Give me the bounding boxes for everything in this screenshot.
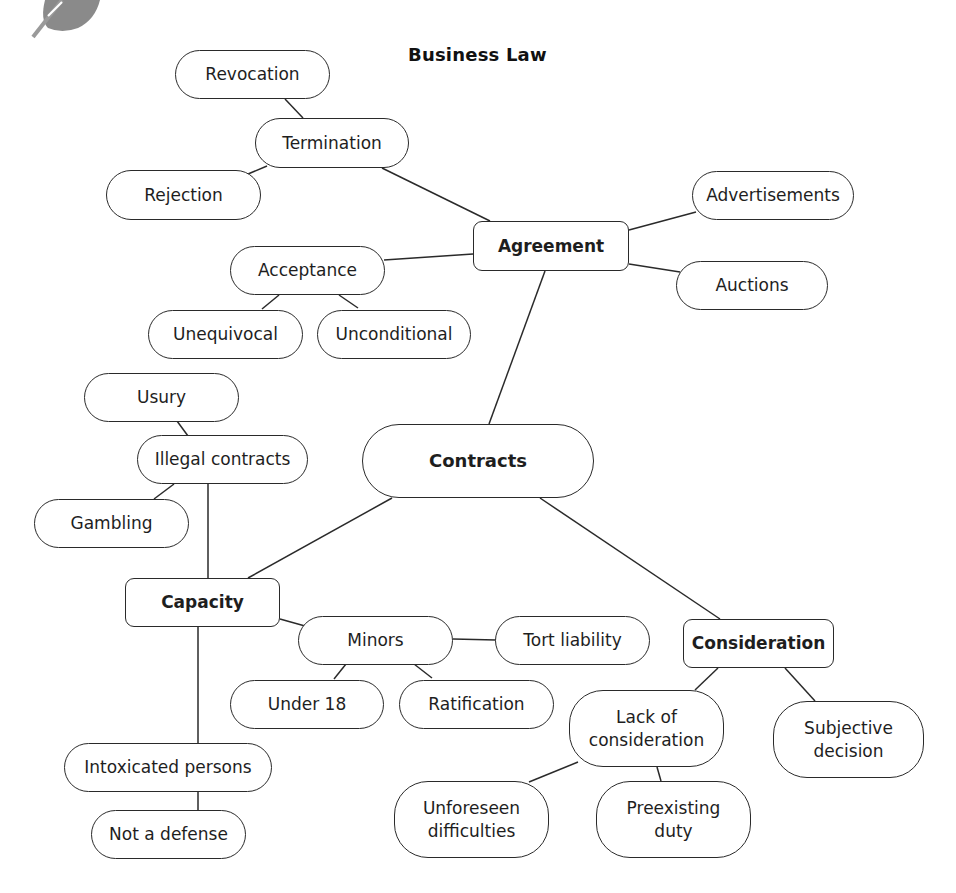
link-agreement-advertisements [629, 212, 696, 230]
node-preexisting-duty[interactable]: Preexisting duty [596, 781, 751, 858]
node-revocation[interactable]: Revocation [175, 50, 330, 99]
node-gambling[interactable]: Gambling [34, 499, 189, 548]
link-minors-under18 [334, 664, 346, 679]
link-termination-agreement [382, 168, 490, 221]
diagram-title: Business Law [408, 44, 547, 65]
node-auctions[interactable]: Auctions [676, 261, 828, 310]
link-termination-rejection [248, 166, 267, 174]
node-acceptance[interactable]: Acceptance [230, 246, 385, 295]
node-tort-liability[interactable]: Tort liability [495, 616, 650, 665]
link-contracts-capacity [248, 498, 392, 578]
node-usury[interactable]: Usury [84, 373, 239, 422]
link-consideration-lack [695, 668, 718, 690]
node-intoxicated-persons[interactable]: Intoxicated persons [64, 743, 272, 792]
node-capacity[interactable]: Capacity [125, 578, 280, 627]
link-lack-preexisting [657, 767, 661, 781]
node-rejection[interactable]: Rejection [106, 170, 261, 220]
link-minors-tort [453, 639, 496, 640]
node-advertisements[interactable]: Advertisements [692, 171, 854, 220]
link-revocation-termination [285, 99, 303, 118]
link-agreement-acceptance [384, 254, 473, 260]
concept-map: Business Law Revocation Termination Reje… [0, 0, 956, 893]
node-unequivocal[interactable]: Unequivocal [148, 310, 303, 359]
node-unconditional[interactable]: Unconditional [317, 310, 471, 359]
link-acceptance-unconditional [339, 295, 358, 308]
node-consideration[interactable]: Consideration [683, 619, 834, 668]
node-not-a-defense[interactable]: Not a defense [91, 810, 246, 859]
link-lack-unforeseen [529, 762, 578, 782]
node-illegal-contracts[interactable]: Illegal contracts [137, 435, 308, 484]
node-lack-of-consideration[interactable]: Lack of consideration [569, 690, 724, 767]
link-agreement-contracts [489, 271, 545, 424]
link-consideration-subjective [785, 668, 815, 701]
link-acceptance-unequivocal [262, 295, 279, 309]
node-contracts[interactable]: Contracts [362, 424, 594, 498]
link-usury-illegal [177, 421, 188, 436]
node-agreement[interactable]: Agreement [473, 221, 629, 271]
node-ratification[interactable]: Ratification [399, 680, 554, 729]
leaf-icon [0, 0, 110, 45]
node-subjective-decision[interactable]: Subjective decision [773, 701, 924, 778]
node-unforeseen-difficulties[interactable]: Unforeseen difficulties [394, 781, 549, 858]
node-minors[interactable]: Minors [298, 616, 453, 665]
link-agreement-auctions [629, 264, 680, 272]
link-illegal-gambling [154, 484, 174, 499]
link-capacity-minors [280, 619, 305, 626]
node-under-18[interactable]: Under 18 [230, 680, 384, 729]
link-contracts-consideration [540, 498, 720, 619]
node-termination[interactable]: Termination [255, 118, 409, 168]
link-minors-ratification [414, 664, 432, 678]
